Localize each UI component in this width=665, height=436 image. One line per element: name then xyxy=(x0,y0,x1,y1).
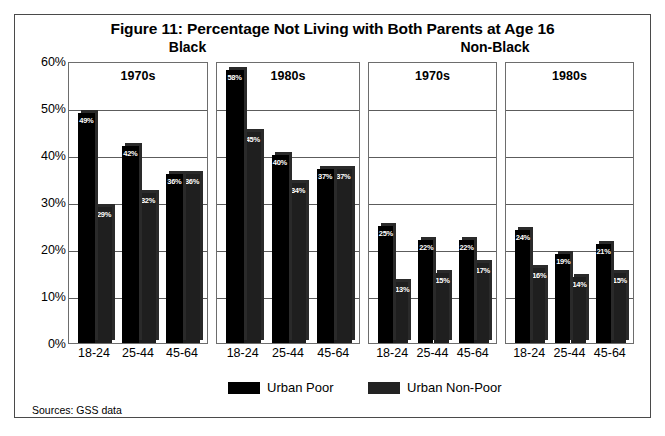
bar-bevel-side xyxy=(261,129,264,341)
bar-bevel-side xyxy=(334,166,337,340)
bar-value-label: 29% xyxy=(97,210,111,219)
bar-bevel-top xyxy=(421,237,433,240)
bar-value-label: 15% xyxy=(613,276,627,285)
bar-bevel-top xyxy=(614,270,626,273)
legend-item-urban-poor: Urban Poor xyxy=(228,380,333,395)
bar-bevel-side xyxy=(95,110,98,340)
bar-value-label: 45% xyxy=(246,135,260,144)
plot-area: 1970s49%29%42%32%36%36%1980s58%45%40%34%… xyxy=(68,62,634,344)
bar: 58% xyxy=(226,70,243,343)
bar-bevel-top xyxy=(518,227,530,230)
bar-bevel-side xyxy=(611,241,614,340)
bar-bevel-top xyxy=(599,241,611,244)
bar-face xyxy=(459,240,474,343)
bar-value-label: 37% xyxy=(318,172,332,181)
panel-label-decade: 1970s xyxy=(369,69,496,83)
bar-value-label: 37% xyxy=(336,172,350,181)
x-axis-label: 18-24 xyxy=(227,346,259,360)
bar-bevel-top xyxy=(462,237,474,240)
bar-value-label: 24% xyxy=(516,233,530,242)
bar-bevel-top xyxy=(396,279,408,282)
bar-bevel-top xyxy=(229,67,243,70)
gridline xyxy=(506,110,633,111)
bar-face xyxy=(166,174,183,343)
bar-bevel-top xyxy=(186,171,200,174)
bar-value-label: 40% xyxy=(273,158,287,167)
legend-swatch-urban-non-poor xyxy=(368,382,400,394)
bar-bevel-top xyxy=(81,110,95,113)
bar: 42% xyxy=(122,146,139,343)
gridline xyxy=(506,204,633,205)
bar-value-label: 34% xyxy=(291,186,305,195)
group-heading-black: Black xyxy=(100,39,275,55)
bar: 49% xyxy=(78,113,95,343)
y-axis-tick: 40% xyxy=(41,149,66,163)
bar-bevel-side xyxy=(474,237,477,340)
x-axis-label: 18-24 xyxy=(376,346,408,360)
bar-face xyxy=(226,70,243,343)
legend-label-urban-non-poor: Urban Non-Poor xyxy=(407,380,502,395)
panel-label-decade: 1970s xyxy=(69,69,207,83)
bar-bevel-side xyxy=(139,143,142,340)
bar-bevel-top xyxy=(437,270,449,273)
bar-bevel-side xyxy=(200,171,203,340)
bar-bevel-side xyxy=(570,251,573,340)
bar: 36% xyxy=(166,174,183,343)
bar-value-label: 25% xyxy=(379,229,393,238)
bar-value-label: 42% xyxy=(123,149,137,158)
bar-bevel-top xyxy=(169,171,183,174)
bar-value-label: 36% xyxy=(167,177,181,186)
bar-bevel-top xyxy=(533,265,545,268)
x-axis-label: 45-64 xyxy=(317,346,349,360)
group-heading-non-black: Non-Black xyxy=(400,39,590,55)
bar-bevel-top xyxy=(98,204,112,207)
bar-bevel-top xyxy=(125,143,139,146)
legend-swatch-urban-poor xyxy=(228,382,260,394)
gridline xyxy=(369,110,496,111)
bar-face xyxy=(272,155,289,343)
bar-value-label: 21% xyxy=(597,247,611,256)
bar-value-label: 32% xyxy=(141,196,155,205)
y-axis-tick: 10% xyxy=(41,290,66,304)
x-axis-label: 18-24 xyxy=(78,346,110,360)
bar-bevel-side xyxy=(244,67,247,340)
x-axis-label: 25-44 xyxy=(554,346,586,360)
bar-face xyxy=(555,254,570,343)
bar-face xyxy=(78,113,95,343)
bar-value-label: 22% xyxy=(419,243,433,252)
bar-value-label: 58% xyxy=(227,73,241,82)
bar-value-label: 15% xyxy=(436,276,450,285)
bar-value-label: 16% xyxy=(532,271,546,280)
x-axis-label: 25-44 xyxy=(272,346,304,360)
bar-bevel-top xyxy=(477,260,489,263)
bar-value-label: 17% xyxy=(476,266,490,275)
bar-face xyxy=(317,169,334,343)
bar-value-label: 13% xyxy=(395,285,409,294)
y-axis-tick: 60% xyxy=(41,55,66,69)
bar-bevel-top xyxy=(247,129,261,132)
bar-bevel-side xyxy=(433,237,436,340)
x-axis-labels: 18-2425-4445-6418-2425-4445-6418-2425-44… xyxy=(68,346,634,364)
y-axis-tick: 50% xyxy=(41,102,66,116)
bar-bevel-top xyxy=(320,166,334,169)
chart-panel: 1980s24%16%19%14%21%15% xyxy=(505,62,634,344)
bar-face xyxy=(378,226,393,344)
bar: 37% xyxy=(317,169,334,343)
bar-value-label: 49% xyxy=(79,116,93,125)
page-title: Figure 11: Percentage Not Living with Bo… xyxy=(0,20,665,38)
x-axis-label: 18-24 xyxy=(513,346,545,360)
figure-container: Figure 11: Percentage Not Living with Bo… xyxy=(0,0,665,436)
bar-face xyxy=(596,244,611,343)
y-axis-ticks: 60%50%40%30%20%10%0% xyxy=(22,62,66,344)
bar: 19% xyxy=(555,254,570,343)
x-axis-label: 25-44 xyxy=(122,346,154,360)
bar-bevel-side xyxy=(156,190,159,340)
bar-bevel-side xyxy=(352,166,355,340)
chart-panel: 1970s49%29%42%32%36%36% xyxy=(68,62,208,344)
bar: 21% xyxy=(596,244,611,343)
x-axis-label: 45-64 xyxy=(166,346,198,360)
bar-bevel-side xyxy=(289,152,292,340)
legend-item-urban-non-poor: Urban Non-Poor xyxy=(368,380,502,395)
bar-face xyxy=(122,146,139,343)
bar-face xyxy=(418,240,433,343)
